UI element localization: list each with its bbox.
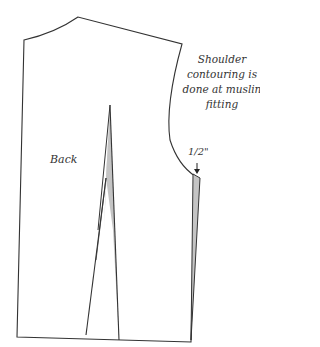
shoulder-annotation: Shoulder contouring is done at muslin fi…: [176, 52, 260, 112]
piece-label: Back: [50, 153, 77, 166]
side-seam-wedge: [191, 174, 200, 340]
measurement-label: 1/2": [188, 146, 209, 157]
arrow-down-icon: [194, 169, 200, 174]
